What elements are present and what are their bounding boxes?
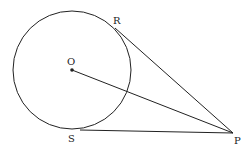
diagram-canvas: O R S P: [0, 0, 250, 149]
label-o: O: [67, 56, 75, 67]
geometry-figure: O R S P: [0, 0, 250, 149]
center-dot: [70, 68, 74, 72]
label-p: P: [234, 135, 241, 146]
label-s: S: [68, 133, 75, 144]
tangent-rp: [115, 28, 233, 133]
tangent-sp: [80, 130, 233, 133]
label-r: R: [113, 15, 121, 26]
